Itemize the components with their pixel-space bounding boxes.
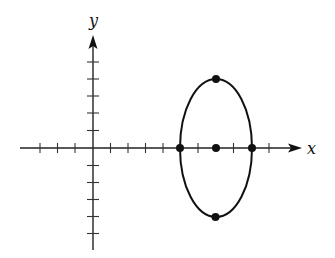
top-vertex-point (212, 75, 220, 83)
ellipse-diagram: x y (0, 0, 335, 258)
center-point (212, 144, 220, 152)
x-axis-label: x (307, 139, 316, 158)
y-axis-label: y (88, 11, 99, 30)
right-vertex-point (248, 144, 256, 152)
left-vertex-point (176, 144, 184, 152)
bottom-vertex-point (212, 213, 220, 221)
